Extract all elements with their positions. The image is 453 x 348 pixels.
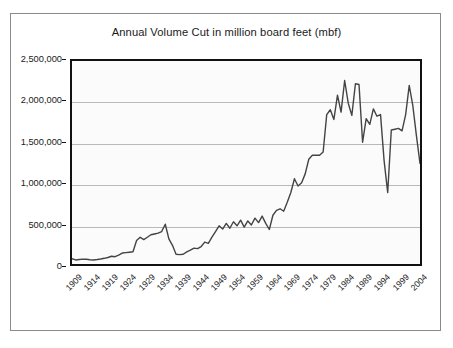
y-tick-mark <box>62 59 66 60</box>
y-tick-mark <box>62 142 66 143</box>
plot-area <box>70 59 422 266</box>
y-tick-label: 2,500,000 <box>21 54 62 64</box>
series-polyline <box>72 80 420 259</box>
y-tick-mark <box>62 225 66 226</box>
chart-title: Annual Volume Cut in million board feet … <box>0 26 453 38</box>
x-axis-labels: 1909191419191924192919341939194419491954… <box>70 266 422 324</box>
y-tick-label: 1,500,000 <box>21 137 62 147</box>
y-axis-labels: 0500,0001,000,0001,500,0002,000,0002,500… <box>0 59 66 266</box>
plot-inner <box>72 61 420 264</box>
chart-screenshot: Annual Volume Cut in million board feet … <box>0 0 453 348</box>
y-tick-label: 1,000,000 <box>21 178 62 188</box>
y-tick-label: 500,000 <box>28 220 62 230</box>
y-tick-label: 2,000,000 <box>21 95 62 105</box>
y-tick-mark <box>62 183 66 184</box>
y-tick-mark <box>62 100 66 101</box>
y-tick-mark <box>62 266 66 267</box>
series-line-chart <box>72 61 420 264</box>
